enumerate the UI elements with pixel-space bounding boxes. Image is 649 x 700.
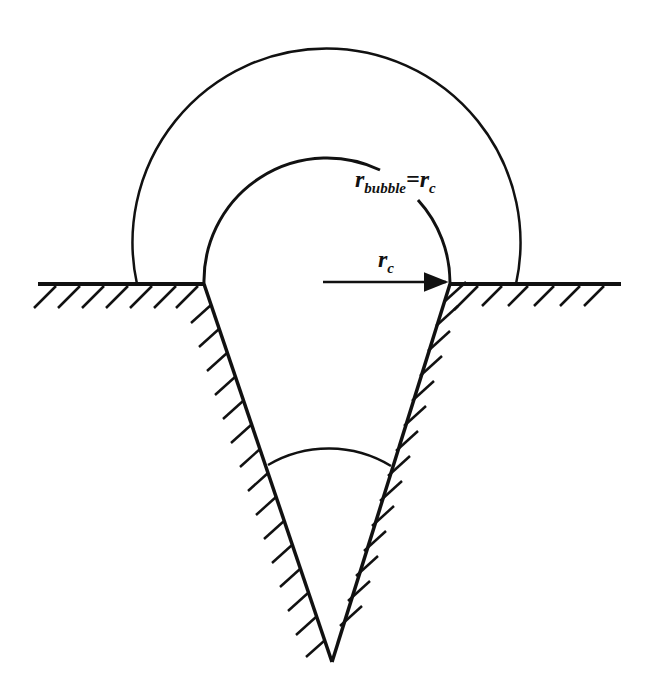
r-bubble-equals-rc-label: rbubble=rc [355, 166, 436, 197]
right-wall-hatching [340, 282, 466, 626]
left-wall-hatching [191, 305, 324, 657]
r-bubble-subscript: bubble [364, 180, 406, 196]
radius-subscript: c [387, 260, 394, 276]
inner-bubble-arc-left [204, 158, 380, 284]
cone-cavity [204, 284, 450, 662]
r-c-subscript: c [429, 180, 436, 196]
cone-angle-arc [268, 449, 391, 466]
radius-rc-label: rc [378, 246, 394, 277]
r-bubble-symbol: r [355, 166, 364, 192]
inner-bubble-arc-right [418, 200, 450, 284]
equals-sign: = [406, 166, 420, 192]
left-surface-hatching [34, 286, 198, 308]
cavity-bubble-diagram [0, 0, 649, 700]
outer-bubble-arc [132, 48, 520, 284]
right-surface-hatching [454, 286, 604, 310]
r-c-symbol: r [420, 166, 429, 192]
radius-symbol: r [378, 246, 387, 272]
